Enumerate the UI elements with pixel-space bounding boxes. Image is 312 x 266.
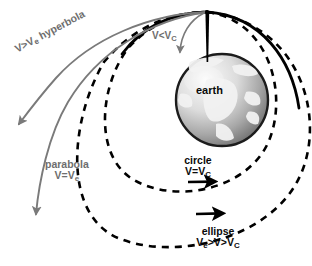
ellipse-orbit-arrow bbox=[196, 213, 222, 214]
ellipse-condition-line: Ve>V>VC bbox=[180, 237, 256, 250]
ellipse-condition-mid: >V>V bbox=[208, 236, 234, 248]
orbital-trajectory-diagram: V>Ve hyperbola parabola V=Ve V<VC circle… bbox=[0, 0, 312, 266]
circle-condition-sub: C bbox=[205, 170, 211, 179]
launch-tower-icon bbox=[205, 12, 209, 62]
parabola-condition-line: V=Ve bbox=[45, 170, 89, 183]
parabola-condition-sub: e bbox=[75, 174, 79, 183]
circle-condition: V=V bbox=[185, 165, 205, 177]
ellipse-condition-b-sub: C bbox=[234, 241, 240, 250]
suborbital-label: V<VC bbox=[152, 31, 177, 43]
parabola-condition: V=V bbox=[55, 169, 75, 181]
circle-condition-line: V=VC bbox=[167, 166, 229, 179]
earth-label: earth bbox=[196, 85, 223, 97]
parabola-label: parabola V=Ve bbox=[45, 159, 89, 183]
suborbital-condition: V<V bbox=[152, 30, 171, 41]
launch-point bbox=[205, 10, 209, 14]
suborbital-path bbox=[180, 13, 204, 52]
ellipse-label: ellipse Ve>V>VC bbox=[180, 226, 256, 250]
suborbital-condition-sub: C bbox=[171, 34, 176, 43]
circle-label: circle V=VC bbox=[167, 155, 229, 179]
